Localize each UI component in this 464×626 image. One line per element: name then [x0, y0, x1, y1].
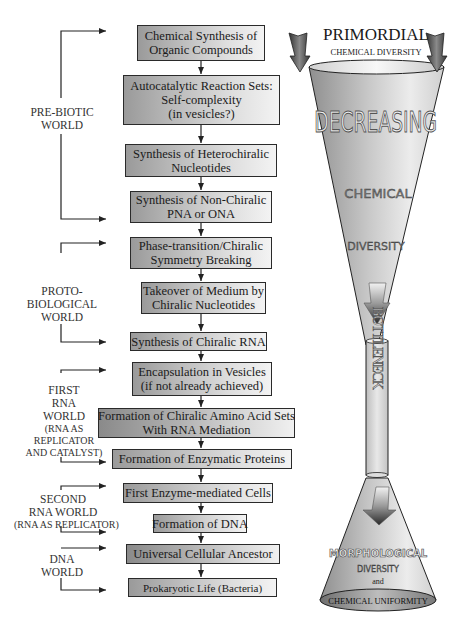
step-prokaryotic-life: Prokaryotic Life (Bacteria): [128, 578, 277, 597]
step-universal-cellular-ancestor: Universal Cellular Ancestor: [126, 544, 280, 564]
step-text: Synthesis of Heterochiralic: [133, 147, 269, 161]
step-autocatalytic-reaction-sets: Autocatalytic Reaction Sets: Self-comple…: [123, 75, 280, 125]
step-first-enzyme-cells: First Enzyme-mediated Cells: [123, 483, 273, 503]
world-label-text: WORLD: [20, 566, 104, 579]
step-encapsulation: Encapsulation in Vesicles (if not alread…: [132, 362, 272, 396]
step-formation-of-dna: Formation of DNA: [153, 514, 247, 533]
step-non-chiralic-pna-ona: Synthesis of Non-Chiralic PNA or ONA: [130, 191, 272, 223]
funnel-word-diversity-lower: DIVERSITY: [357, 565, 399, 574]
funnel-top-subtitle: CHEMICAL DIVERSITY: [330, 47, 421, 57]
step-text: Synthesis of Non-Chiralic: [136, 193, 267, 207]
world-label-text: BIOLOGICAL: [20, 298, 104, 311]
world-label-dna: DNA WORLD: [20, 553, 104, 579]
funnel-bottom-label: CHEMICAL UNIFORMITY: [328, 596, 428, 606]
funnel-word-decreasing: DECREASING: [314, 107, 437, 140]
step-text: Formation of Chiralic Amino Acid Sets: [98, 409, 295, 423]
world-label-text: PROTO-: [20, 285, 104, 298]
step-chiralic-amino-acid-sets: Formation of Chiralic Amino Acid Sets Wi…: [98, 408, 295, 438]
step-text: (in vesicles?): [168, 107, 234, 121]
step-text: With RNA Mediation: [143, 423, 251, 437]
step-text: (if not already achieved): [141, 379, 264, 393]
step-text: Nucleotides: [171, 161, 231, 175]
funnel-top-title: PRIMORDIAL: [323, 25, 429, 44]
world-label-text: PRE-BIOTIC: [20, 106, 104, 119]
step-text: Encapsulation in Vesicles: [138, 365, 266, 379]
world-label-first-rna: FIRST RNA WORLD (RNA AS REPLICATOR AND C…: [22, 384, 106, 459]
step-chiralic-rna: Synthesis of Chiralic RNA: [130, 332, 267, 351]
world-label-text: FIRST: [22, 384, 106, 397]
step-text: Chiralic Nucleotides: [152, 298, 255, 312]
world-label-text: AND CATALYST): [22, 447, 106, 459]
step-text: Synthesis of Chiralic RNA: [131, 335, 265, 349]
world-label-text: WORLD: [20, 311, 104, 324]
step-takeover-of-medium: Takeover of Medium by Chiralic Nucleotid…: [141, 282, 266, 314]
world-label-text: SECOND: [14, 493, 112, 506]
funnel-word-and: and: [372, 577, 384, 586]
left-down-arrow-icon: [289, 33, 310, 72]
step-text: Formation of Enzymatic Proteins: [119, 452, 285, 466]
world-label-text: REPLICATOR: [22, 435, 106, 447]
step-text: Universal Cellular Ancestor: [133, 547, 273, 561]
funnel-word-bottleneck: BOTTLENECK: [370, 307, 385, 390]
step-enzymatic-proteins: Formation of Enzymatic Proteins: [112, 449, 292, 469]
funnel-word-diversity: DIVERSITY: [347, 240, 405, 253]
world-label-proto-biological: PROTO- BIOLOGICAL WORLD: [20, 285, 104, 324]
world-label-second-rna: SECOND RNA WORLD (RNA AS REPLICATOR): [14, 493, 112, 531]
step-heterochiralic-nucleotides: Synthesis of Heterochiralic Nucleotides: [125, 144, 277, 177]
step-text: PNA or ONA: [167, 207, 235, 221]
step-text: First Enzyme-mediated Cells: [125, 486, 271, 500]
funnel-word-morphological: MORPHOLOGICAL: [329, 548, 428, 559]
step-text: Autocatalytic Reaction Sets:: [130, 79, 272, 93]
step-text: Takeover of Medium by: [143, 284, 264, 298]
step-phase-transition: Phase-transition/Chiralic Symmetry Break…: [130, 237, 272, 269]
world-label-pre-biotic: PRE-BIOTIC WORLD: [20, 106, 104, 132]
world-label-text: DNA: [20, 553, 104, 566]
world-label-text: (RNA AS: [22, 423, 106, 435]
world-label-text: (RNA AS REPLICATOR): [14, 519, 112, 531]
world-label-text: WORLD: [22, 410, 106, 423]
step-text: Prokaryotic Life (Bacteria): [143, 581, 262, 595]
step-chemical-synthesis: Chemical Synthesis of Organic Compounds: [137, 25, 265, 61]
step-text: Symmetry Breaking: [150, 253, 251, 267]
step-text: Organic Compounds: [149, 43, 253, 57]
funnel-word-chemical: CHEMICAL: [344, 186, 412, 201]
world-label-text: WORLD: [20, 119, 104, 132]
world-label-text: RNA WORLD: [14, 506, 112, 519]
step-text: Self-complexity: [161, 93, 242, 107]
world-label-text: RNA: [22, 397, 106, 410]
step-text: Formation of DNA: [152, 517, 248, 531]
step-text: Chemical Synthesis of: [145, 29, 258, 43]
step-text: Phase-transition/Chiralic: [139, 239, 263, 253]
